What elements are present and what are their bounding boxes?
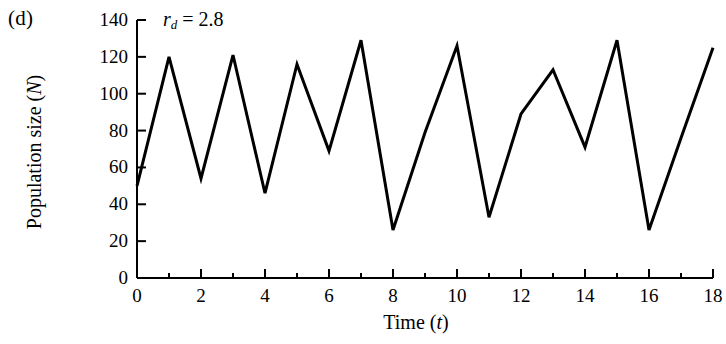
y-axis-tick-label: 80 (80, 121, 128, 140)
data-series-line (137, 40, 713, 230)
x-axis-tick-label: 18 (693, 286, 726, 305)
x-axis-tick-label: 2 (181, 286, 221, 305)
y-axis-tick-label: 20 (80, 231, 128, 250)
y-axis-tick-label: 140 (80, 10, 128, 29)
x-axis-tick-label: 14 (565, 286, 605, 305)
y-axis-tick-label: 120 (80, 47, 128, 66)
x-axis-tick-label: 4 (245, 286, 285, 305)
x-axis-tick-label: 10 (437, 286, 477, 305)
y-axis-tick-label: 100 (80, 84, 128, 103)
y-axis-tick-label: 60 (80, 157, 128, 176)
figure-panel-d: (d) rd = 2.8 Population size (N) Time (t… (0, 0, 726, 344)
x-axis-tick-label: 8 (373, 286, 413, 305)
x-axis-tick-label: 0 (117, 286, 157, 305)
x-axis-tick-label: 16 (629, 286, 669, 305)
y-axis-tick-label: 0 (80, 268, 128, 287)
x-axis-tick-label: 12 (501, 286, 541, 305)
y-axis-tick-label: 40 (80, 194, 128, 213)
axis-lines (137, 20, 713, 278)
x-axis-tick-label: 6 (309, 286, 349, 305)
x-axis-ticks (137, 269, 713, 278)
